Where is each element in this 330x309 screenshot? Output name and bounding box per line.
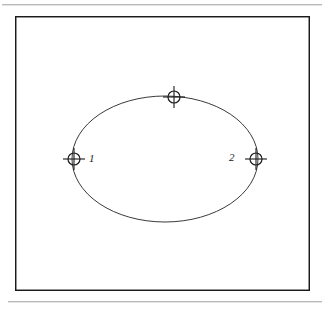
vertex-label-2: 2: [229, 152, 235, 163]
figure-page: 1 2: [0, 0, 330, 309]
page-rule-bottom: [8, 301, 322, 303]
page-rule-top: [2, 4, 322, 6]
drawing-frame: [15, 16, 310, 291]
vertex-label-1: 1: [89, 153, 95, 164]
